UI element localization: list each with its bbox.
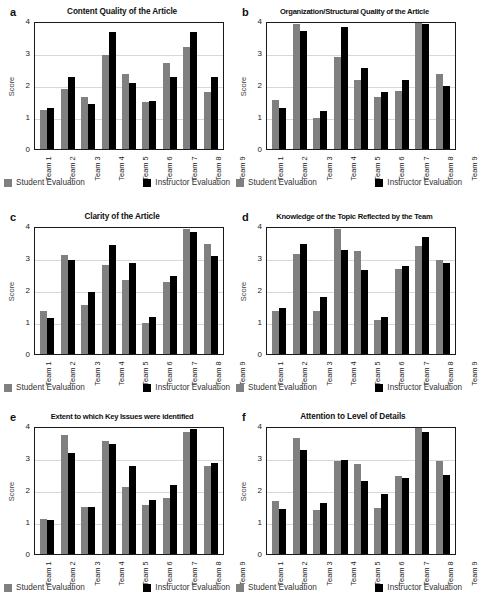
bar-group bbox=[289, 23, 309, 149]
y-tick-label: 0 bbox=[258, 146, 262, 154]
bar-student bbox=[395, 91, 402, 149]
x-tick-label-text: Team 7 bbox=[189, 156, 198, 180]
legend-swatch-student bbox=[4, 179, 12, 187]
plot-area: Score01234Team 1Team 2Team 3Team 4Team 5… bbox=[4, 427, 232, 567]
bar-instructor bbox=[211, 77, 218, 149]
x-tick-label-text: Team 2 bbox=[68, 156, 77, 180]
bar-student bbox=[354, 80, 361, 149]
bar-group bbox=[139, 228, 159, 354]
x-tick-label-text: Team 9 bbox=[470, 361, 479, 385]
legend-item-student: Student Evaluation bbox=[4, 178, 85, 187]
bar-group bbox=[433, 428, 453, 554]
chart-panel-e: eExtent to which Key Issues were identif… bbox=[0, 405, 232, 610]
bar-group bbox=[201, 428, 221, 554]
bar-instructor bbox=[443, 263, 450, 354]
bar-group bbox=[180, 228, 200, 354]
plot-area: Score01234Team 1Team 2Team 3Team 4Team 5… bbox=[236, 22, 464, 162]
bar-instructor bbox=[300, 450, 307, 554]
bar-group bbox=[269, 428, 289, 554]
bar-student bbox=[374, 97, 381, 149]
legend: Student EvaluationInstructor Evaluation bbox=[4, 583, 230, 592]
bar-student bbox=[354, 251, 361, 354]
panel-letter: f bbox=[242, 411, 246, 423]
bar-student bbox=[81, 507, 88, 554]
y-axis-label-text: Score bbox=[240, 481, 249, 501]
bar-student bbox=[163, 498, 170, 554]
bar-container bbox=[35, 428, 223, 554]
bar-instructor bbox=[341, 27, 348, 149]
y-tick-label: 1 bbox=[26, 319, 30, 327]
bar-student bbox=[272, 501, 279, 554]
legend-swatch-instructor bbox=[375, 384, 383, 392]
x-tick-label-text: Team 3 bbox=[92, 156, 101, 180]
x-tick-label-text: Team 3 bbox=[324, 361, 333, 385]
y-axis-ticks: 01234 bbox=[18, 227, 32, 355]
bar-instructor bbox=[422, 237, 429, 354]
x-tick-label-text: Team 6 bbox=[397, 361, 406, 385]
bar-instructor bbox=[361, 68, 368, 149]
x-tick-label-text: Team 1 bbox=[44, 361, 53, 385]
y-tick-label: 3 bbox=[26, 50, 30, 58]
y-tick-label: 3 bbox=[258, 255, 262, 263]
bar-instructor bbox=[109, 245, 116, 354]
bar-group bbox=[351, 23, 371, 149]
bar-instructor bbox=[211, 256, 218, 354]
y-tick-label: 0 bbox=[26, 351, 30, 359]
legend-item-instructor: Instructor Evaluation bbox=[375, 583, 462, 592]
bar-group bbox=[139, 23, 159, 149]
bar-student bbox=[374, 320, 381, 354]
x-tick-label: Team 9 bbox=[462, 556, 482, 598]
bar-student bbox=[61, 255, 68, 354]
plot-area: Score01234Team 1Team 2Team 3Team 4Team 5… bbox=[236, 427, 464, 567]
x-tick-label-text: Team 6 bbox=[397, 156, 406, 180]
bar-instructor bbox=[129, 83, 136, 149]
x-tick-label-text: Team 5 bbox=[373, 561, 382, 585]
x-tick-label-text: Team 2 bbox=[68, 561, 77, 585]
bar-student bbox=[313, 118, 320, 149]
bar-instructor bbox=[320, 111, 327, 149]
y-tick-label: 3 bbox=[26, 455, 30, 463]
x-tick-label-text: Team 8 bbox=[213, 156, 222, 180]
y-axis-ticks: 01234 bbox=[250, 227, 264, 355]
bar-student bbox=[313, 510, 320, 554]
y-axis-label-text: Score bbox=[8, 76, 17, 96]
x-tick-label-text: Team 4 bbox=[348, 156, 357, 180]
legend-label-instructor: Instructor Evaluation bbox=[155, 178, 230, 187]
y-axis-label: Score bbox=[238, 22, 250, 150]
bar-student bbox=[40, 311, 47, 354]
bar-group bbox=[37, 428, 57, 554]
x-tick-label-text: Team 5 bbox=[373, 361, 382, 385]
bar-student bbox=[395, 269, 402, 354]
bar-student bbox=[142, 323, 149, 354]
bar-instructor bbox=[320, 503, 327, 554]
axes-frame bbox=[34, 22, 224, 150]
bar-container bbox=[267, 428, 455, 554]
bar-group bbox=[160, 428, 180, 554]
bar-instructor bbox=[402, 266, 409, 354]
bar-instructor bbox=[68, 453, 75, 554]
bar-student bbox=[272, 100, 279, 149]
bar-student bbox=[354, 464, 361, 554]
bar-student bbox=[334, 461, 341, 554]
bar-student bbox=[436, 74, 443, 149]
x-tick-label-text: Team 8 bbox=[445, 361, 454, 385]
bar-student bbox=[61, 435, 68, 554]
bar-group bbox=[433, 23, 453, 149]
axes-frame bbox=[34, 427, 224, 555]
bar-student bbox=[183, 432, 190, 554]
bar-student bbox=[415, 23, 422, 149]
bar-group bbox=[392, 428, 412, 554]
bar-student bbox=[122, 280, 129, 354]
legend-swatch-student bbox=[236, 584, 244, 592]
bar-instructor bbox=[47, 108, 54, 149]
y-tick-label: 2 bbox=[26, 287, 30, 295]
bar-group bbox=[412, 23, 432, 149]
y-axis-label: Score bbox=[6, 22, 18, 150]
bar-group bbox=[412, 228, 432, 354]
bar-student bbox=[61, 89, 68, 149]
bar-student bbox=[163, 63, 170, 149]
x-tick-label-text: Team 9 bbox=[470, 156, 479, 180]
bar-group bbox=[289, 428, 309, 554]
legend-label-student: Student Evaluation bbox=[16, 383, 85, 392]
legend-swatch-student bbox=[236, 384, 244, 392]
